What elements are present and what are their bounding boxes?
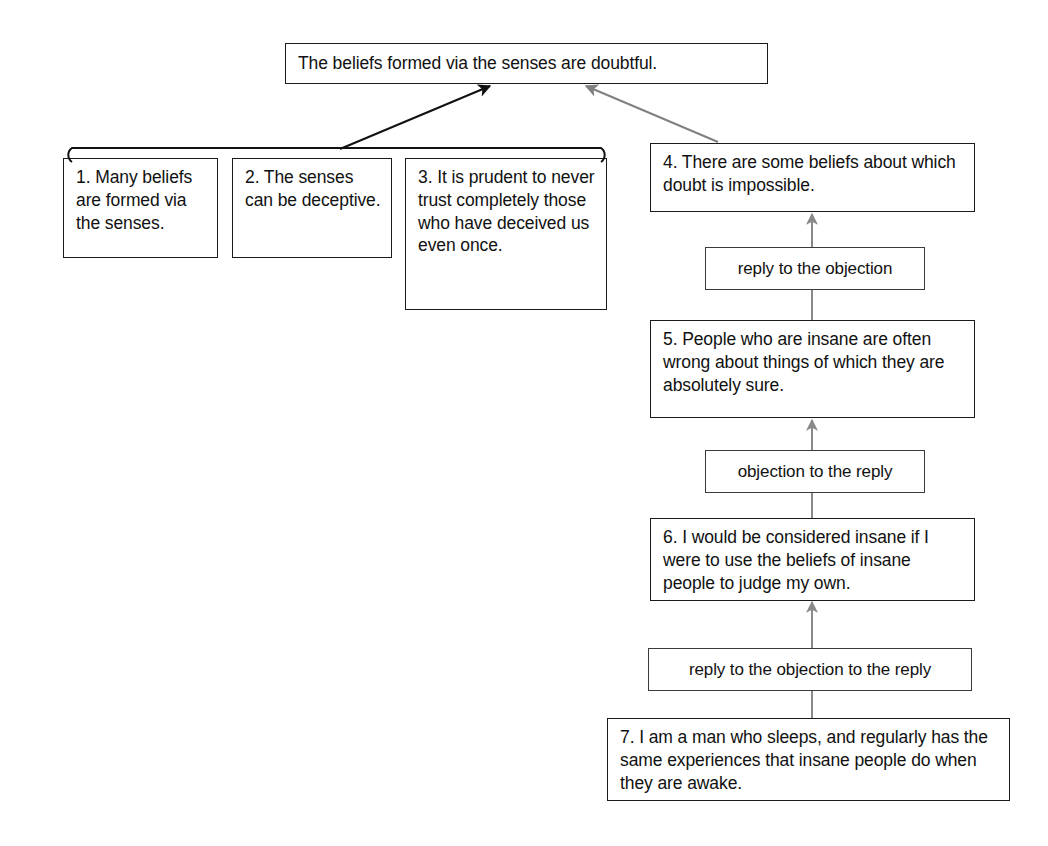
node-conclusion-text: The beliefs formed via the senses are do… [298, 52, 657, 75]
argument-diagram-canvas: The beliefs formed via the senses are do… [0, 0, 1048, 846]
node-conclusion[interactable]: The beliefs formed via the senses are do… [285, 43, 768, 84]
relation-label-3-text: reply to the objection to the reply [689, 660, 931, 680]
arrow-premises-to-conclusion [340, 86, 490, 149]
premise-group-bracket [60, 144, 614, 164]
node-premise-3[interactable]: 3. It is prudent to never trust complete… [405, 158, 607, 310]
node-premise-4-text: 4. There are some beliefs about which do… [663, 152, 956, 195]
node-premise-5-text: 5. People who are insane are often wrong… [663, 329, 944, 395]
node-premise-2-text: 2. The senses can be deceptive. [245, 167, 380, 210]
relation-label-1-text: reply to the objection [738, 259, 893, 279]
relation-label-2-text: objection to the reply [738, 462, 893, 482]
node-premise-5[interactable]: 5. People who are insane are often wrong… [650, 320, 975, 418]
relation-label-reply-to-objection[interactable]: reply to the objection [705, 247, 925, 290]
node-premise-4[interactable]: 4. There are some beliefs about which do… [650, 143, 975, 212]
node-premise-6[interactable]: 6. I would be considered insane if I wer… [650, 518, 975, 601]
node-premise-6-text: 6. I would be considered insane if I wer… [663, 527, 929, 593]
arrow-p4-to-conclusion [586, 86, 718, 142]
node-premise-2[interactable]: 2. The senses can be deceptive. [232, 158, 392, 258]
node-premise-7-text: 7. I am a man who sleeps, and regularly … [620, 727, 988, 793]
node-premise-1[interactable]: 1. Many beliefs are formed via the sense… [63, 158, 218, 258]
node-premise-7[interactable]: 7. I am a man who sleeps, and regularly … [607, 718, 1010, 801]
node-premise-1-text: 1. Many beliefs are formed via the sense… [76, 167, 192, 233]
relation-label-reply-to-objection-to-reply[interactable]: reply to the objection to the reply [648, 648, 972, 691]
relation-label-objection-to-reply[interactable]: objection to the reply [705, 450, 925, 493]
node-premise-3-text: 3. It is prudent to never trust complete… [418, 167, 595, 255]
